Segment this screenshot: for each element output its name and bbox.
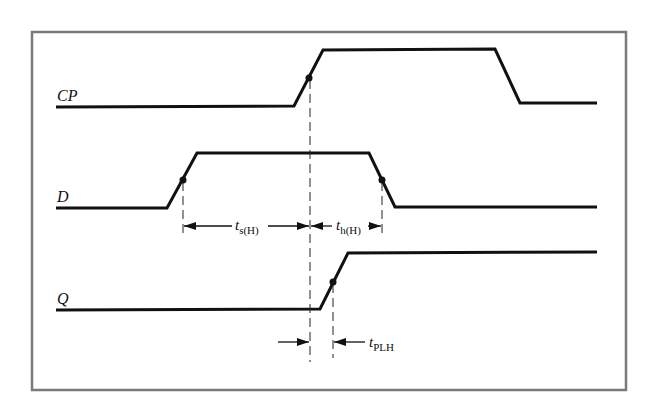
hold-time-label: th(H) [336, 217, 361, 237]
d-fall-midpoint-dot [379, 177, 386, 184]
propagation-delay-label: tPLH [369, 334, 394, 353]
d-rise-midpoint-dot [180, 177, 187, 184]
arrow-left-icon [334, 338, 346, 346]
diagram-frame [32, 32, 626, 390]
setup-time-dimension: ts(H) [184, 217, 309, 237]
propagation-delay-dimension: tPLH [278, 334, 394, 353]
signal-label-q: Q [57, 290, 69, 307]
arrow-right-icon [369, 222, 381, 230]
signal-label-cp: CP [57, 87, 78, 104]
cp-waveform [56, 49, 597, 107]
cp-midpoint-dot [306, 75, 313, 82]
arrow-right-icon [297, 338, 309, 346]
q-midpoint-dot [330, 279, 337, 286]
q-waveform [56, 252, 597, 310]
setup-time-label: ts(H) [235, 217, 259, 237]
arrow-left-icon [184, 222, 196, 230]
d-waveform [56, 153, 597, 208]
signal-label-d: D [56, 188, 69, 205]
arrow-left-icon [311, 222, 323, 230]
timing-diagram: CP D Q ts(H) th(H) tPLH [0, 0, 655, 408]
arrow-right-icon [297, 222, 309, 230]
hold-time-dimension: th(H) [311, 217, 381, 237]
